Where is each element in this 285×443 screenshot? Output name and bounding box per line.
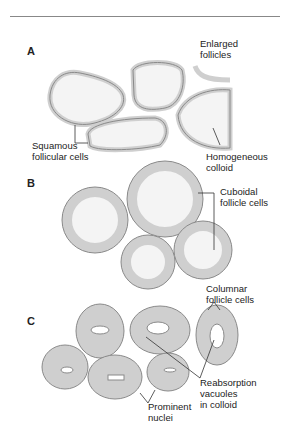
panel-a-letter: A: [27, 45, 35, 57]
prominent-nuclei-label: Prominent nuclei: [148, 401, 191, 423]
cuboidal-cells-label: Cuboidal follicle cells: [220, 186, 268, 208]
homogeneous-colloid-label: Homogeneous colloid: [206, 151, 268, 173]
columnar-cells-label: Columnar follicle cells: [206, 283, 254, 305]
panel-c-letter: C: [27, 315, 35, 327]
squamous-cells-label: Squamous follicular cells: [32, 140, 89, 162]
reabsorption-vacuoles-label: Reabsorption vacuoles in colloid: [200, 377, 257, 410]
panel-b-letter: B: [27, 177, 35, 189]
enlarged-follicles-label: Enlarged follicles: [200, 38, 238, 60]
